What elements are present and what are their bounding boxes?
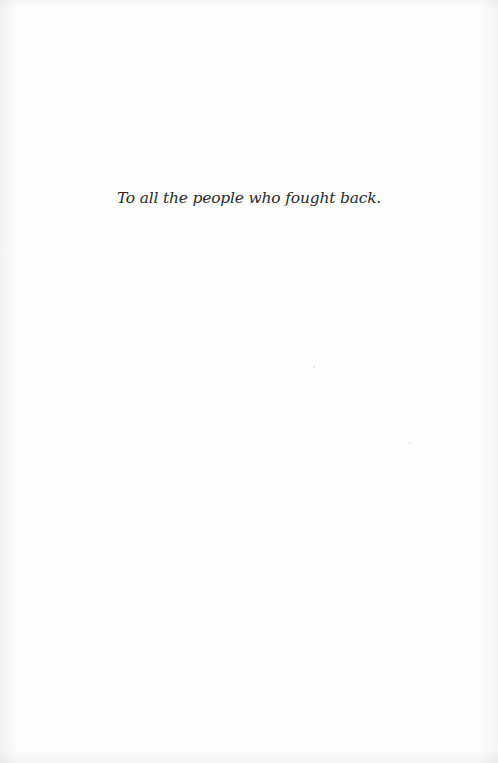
page-edge-shadow-right (476, 0, 498, 763)
dedication-text: To all the people who fought back. (0, 189, 498, 207)
page-edge-shadow-top (0, 0, 498, 10)
book-page: To all the people who fought back. (0, 0, 498, 763)
scan-speck (313, 366, 315, 368)
page-edge-shadow-left (0, 0, 18, 763)
page-edge-shadow-bottom (0, 749, 498, 763)
scan-speck (408, 442, 411, 444)
